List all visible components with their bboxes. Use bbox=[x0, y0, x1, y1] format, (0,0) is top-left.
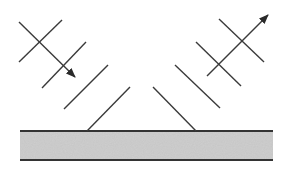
incident-wavefront-1 bbox=[19, 20, 62, 62]
incident-wavefront-3 bbox=[64, 65, 108, 109]
reflected-ray-arrow-icon bbox=[207, 15, 268, 76]
incident-wavefront-2 bbox=[42, 42, 86, 88]
surface-slab bbox=[20, 131, 273, 160]
incident-ray-arrow-icon bbox=[19, 22, 75, 77]
reflected-wavefront-2 bbox=[175, 65, 220, 108]
incident-wavefronts bbox=[19, 20, 130, 131]
incident-wavefront-4 bbox=[87, 87, 130, 131]
reflecting-surface bbox=[20, 131, 273, 160]
reflected-wavefront-1 bbox=[153, 87, 196, 131]
reflection-diagram bbox=[0, 0, 290, 172]
diagram-canvas bbox=[0, 0, 290, 172]
